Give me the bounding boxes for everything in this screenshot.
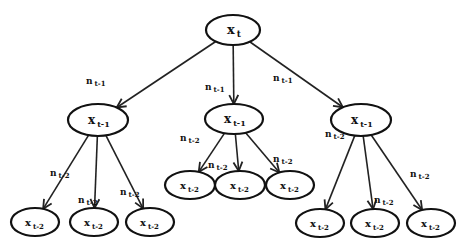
edge-level1-to-level2-5 bbox=[246, 133, 280, 173]
edge-label-noise-t-2: nt-2 bbox=[180, 133, 200, 145]
node-x-t-2: xt-2 bbox=[351, 209, 399, 237]
edge-label-noise-t-1: nt-1 bbox=[273, 73, 293, 85]
node-x-t-2: xt-2 bbox=[215, 171, 265, 199]
node-x-t-2: xt-2 bbox=[407, 209, 455, 237]
node-root-x-t: xt bbox=[206, 15, 260, 45]
edge-label-noise-t-2: nt-2 bbox=[120, 187, 140, 199]
node-x-t-2: xt-2 bbox=[126, 208, 174, 236]
node-x-t-1: xt-1 bbox=[205, 104, 263, 134]
edge-root-to-level1-1 bbox=[233, 45, 234, 104]
edge-level1-to-level2-4 bbox=[235, 134, 238, 171]
node-x-t-2: xt-2 bbox=[296, 209, 344, 237]
edge-label-noise-t-2: nt-2 bbox=[374, 195, 394, 207]
edge-level1-to-level2-6 bbox=[325, 136, 354, 210]
node-x-t-2: xt-2 bbox=[11, 208, 59, 236]
edge-level1-to-level2-7 bbox=[363, 136, 373, 209]
node-x-t-2: xt-2 bbox=[165, 171, 215, 199]
edge-label-noise-t-1: nt-1 bbox=[86, 76, 106, 88]
edge-root-to-level1-0 bbox=[117, 42, 216, 108]
edge-label-noise-t-1: nt-1 bbox=[205, 82, 225, 94]
edge-label-noise-t-2: nt-2 bbox=[273, 154, 293, 166]
edge-label-noise-t-2: nt-2 bbox=[410, 169, 430, 181]
node-x-t-1: xt-1 bbox=[68, 104, 128, 136]
node-x-t-2: xt-2 bbox=[266, 171, 314, 199]
edge-root-to-level1-2 bbox=[250, 42, 343, 107]
node-x-t-2: xt-2 bbox=[70, 208, 118, 236]
tree-diagram: xtxt-1xt-1xt-1xt-2xt-2xt-2xt-2xt-2xt-2xt… bbox=[0, 0, 466, 252]
edge-label-noise-t-2: nt-2 bbox=[208, 160, 228, 172]
